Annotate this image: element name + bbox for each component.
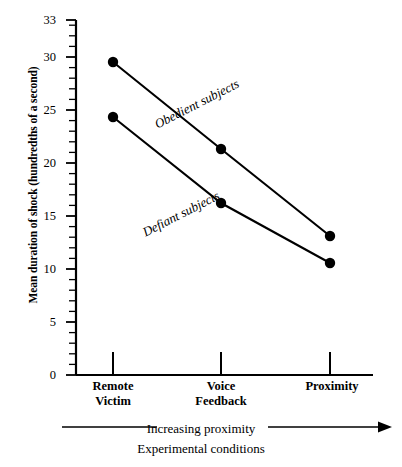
experimental-conditions-label: Experimental conditions <box>0 441 402 457</box>
data-point-obedient-remote-victim <box>108 57 118 67</box>
x-tick-label-voice-feedback-line2: Feedback <box>161 394 281 409</box>
increasing-proximity-label: Increasing proximity <box>0 421 402 437</box>
x-tick-label-proximity-line1: Proximity <box>272 379 392 394</box>
data-point-defiant-remote-victim <box>108 112 118 122</box>
x-tick-label-voice-feedback: Voice Feedback <box>161 379 281 409</box>
data-point-defiant-proximity <box>325 258 335 268</box>
data-point-obedient-proximity <box>325 231 335 241</box>
x-tick-label-voice-feedback-line1: Voice <box>161 379 281 394</box>
x-tick-label-remote-victim-line2: Victim <box>53 394 173 409</box>
series-defiant-line <box>113 117 330 263</box>
y-major-ticks <box>66 20 76 375</box>
data-point-obedient-voice-feedback <box>216 144 226 154</box>
series-defiant-subjects <box>108 112 335 268</box>
x-tick-label-remote-victim: Remote Victim <box>53 379 173 409</box>
x-tick-label-proximity: Proximity <box>272 379 392 394</box>
x-ticks <box>113 352 330 375</box>
x-tick-label-remote-victim-line1: Remote <box>53 379 173 394</box>
chart-figure: Mean duration of shock (hundredths of a … <box>0 0 402 467</box>
